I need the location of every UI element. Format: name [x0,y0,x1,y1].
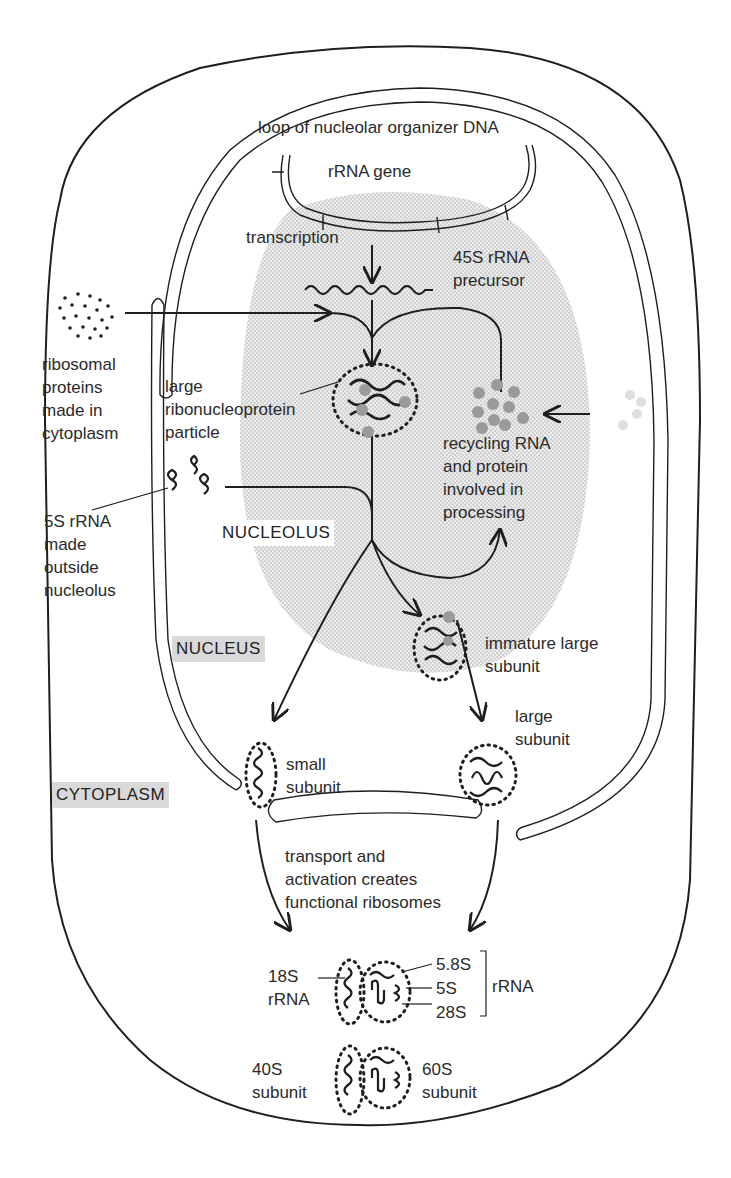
large-rnp-label: large ribonucleoprotein particle [165,375,295,444]
functional-ribosome-labelled [336,960,410,1024]
immature-large-subunit-label: immature large subunit [485,632,598,678]
transcription-label: transcription [246,226,339,249]
functional-ribosome-subunits [336,1046,410,1114]
large-subunit-label: large subunit [515,705,570,751]
subunit-40s-label: 40S subunit [252,1058,307,1104]
nucleolus-tag: NUCLEOLUS [218,520,334,546]
large-subunit [460,745,516,805]
precursor-label-line1: 45S rRNA [453,246,530,269]
rrna-gene-label: rRNA gene [328,160,411,183]
cytoplasm-tag: CYTOPLASM [52,782,169,808]
subunit-60s-label: 60S subunit [422,1058,477,1104]
ribosomal-proteins-label: ribosomal proteins made in cytoplasm [42,353,119,445]
rrna-28s-label: 28S [436,1001,466,1024]
small-subunit [246,743,276,807]
rrna-bracket-label: rRNA [492,975,534,998]
ribosomal-proteins-dots [58,292,114,340]
five-s-rrna-squiggles [168,456,208,494]
five-s-label: 5S rRNA made outside nucleolus [44,510,116,602]
rrna-5s-label: 5S [436,977,457,1000]
transport-label: transport and activation creates functio… [285,845,441,914]
rrna-18s-label: 18S rRNA [268,965,310,1011]
precursor-label-line2: precursor [453,269,525,292]
faint-protein-particles [618,390,646,430]
nucleus-tag: NUCLEUS [172,636,265,662]
dna-loop-label: loop of nucleolar organizer DNA [258,116,499,139]
small-subunit-label: small subunit [286,753,341,799]
rrna-5-8s-label: 5.8S [436,953,471,976]
recycling-label: recycling RNA and protein involved in pr… [443,432,551,524]
